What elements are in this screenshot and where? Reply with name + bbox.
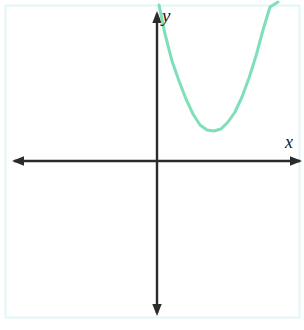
y-axis-bottom-arrowhead bbox=[152, 304, 161, 316]
coordinate-plane-svg bbox=[0, 0, 304, 330]
x-axis-label: x bbox=[285, 133, 293, 151]
x-axis-left-arrowhead bbox=[12, 156, 24, 166]
y-axis-label: y bbox=[162, 6, 170, 25]
parabola-curve bbox=[159, 2, 278, 131]
graph-figure: y x bbox=[0, 0, 304, 330]
